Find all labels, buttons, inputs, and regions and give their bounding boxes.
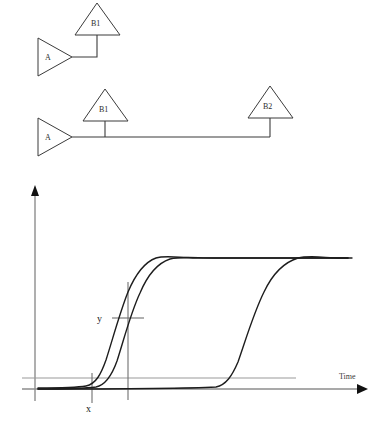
node-a-label-bottom: A <box>45 133 51 142</box>
figure-svg: A B1 A B1 B2 Time <box>0 0 379 430</box>
node-a-label-top: A <box>45 53 51 62</box>
figure-canvas: A B1 A B1 B2 Time <box>0 0 379 430</box>
diagram-dual-branch: A B1 B2 <box>38 86 293 156</box>
x-axis-arrow-icon <box>357 384 368 394</box>
node-b1-label-top: B1 <box>91 19 100 28</box>
node-b1-label-bottom: B1 <box>99 105 108 114</box>
series-curve-2 <box>38 257 348 389</box>
x-marker-label: x <box>86 403 91 414</box>
node-a-triangle-top[interactable] <box>38 38 72 76</box>
x-axis-label: Time <box>339 372 356 381</box>
y-axis-arrow-icon <box>31 185 39 196</box>
link-a-to-b1-top <box>72 35 97 57</box>
series-curve-3 <box>38 257 352 389</box>
diagram-single-branch: A B1 <box>38 3 120 76</box>
node-b2-label: B2 <box>263 102 272 111</box>
chart-area: Time x y <box>22 185 368 414</box>
node-a-triangle-bottom[interactable] <box>38 118 72 156</box>
series-curve-1 <box>38 257 348 388</box>
y-marker-label: y <box>97 313 102 324</box>
